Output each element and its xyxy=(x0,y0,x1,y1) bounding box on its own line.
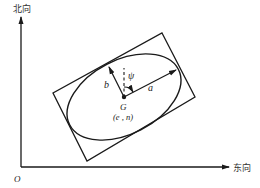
error-ellipse-diagram: 北向 东向 O a b ψ G (e , n) xyxy=(0,0,260,188)
semi-minor-arrow xyxy=(109,67,124,97)
east-label: 东向 xyxy=(233,162,251,173)
semi-major-label: a xyxy=(148,82,153,93)
angle-label: ψ xyxy=(128,70,135,81)
center-label: G xyxy=(120,102,127,112)
angle-arc xyxy=(124,87,133,92)
center-point xyxy=(122,95,126,99)
north-label: 北向 xyxy=(13,3,31,14)
origin-label: O xyxy=(14,174,21,184)
axes xyxy=(21,17,229,167)
center-coords-label: (e , n) xyxy=(113,112,133,122)
semi-minor-label: b xyxy=(104,79,109,90)
